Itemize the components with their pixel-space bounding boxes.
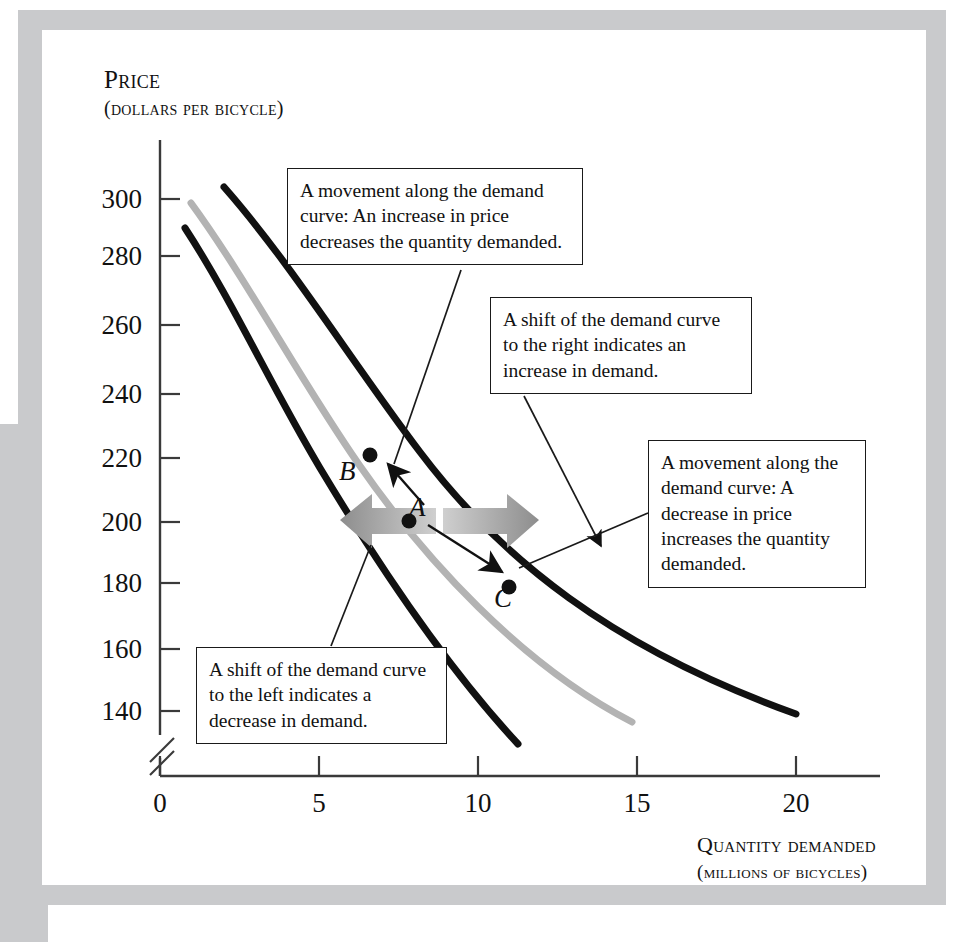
callout-movement-up: A movement along the demand curve: An in… bbox=[287, 168, 583, 265]
leader-line-shift-right bbox=[524, 396, 601, 546]
callout-shift-right: A shift of the demand curve to the right… bbox=[490, 297, 752, 394]
y-tick-label: 160 bbox=[84, 634, 142, 665]
demand-curve-original bbox=[191, 203, 632, 722]
y-tick-label: 240 bbox=[84, 379, 142, 410]
leader-line-shift-left bbox=[331, 545, 371, 646]
x-tick-label: 10 bbox=[458, 788, 498, 819]
y-tick-label: 280 bbox=[84, 241, 142, 272]
y-axis-title-line1: Price bbox=[104, 66, 160, 94]
x-tick-label: 20 bbox=[776, 788, 816, 819]
point-label-a: A bbox=[409, 492, 426, 523]
y-axis-title-line2: (dollars per bicycle) bbox=[104, 97, 284, 120]
x-tick-label: 0 bbox=[140, 788, 180, 819]
leader-line-movement-up bbox=[394, 270, 461, 464]
figure-page: Price (dollars per bicycle) Quantity dem… bbox=[0, 0, 964, 942]
x-tick-label: 15 bbox=[617, 788, 657, 819]
y-tick-label: 220 bbox=[84, 443, 142, 474]
callout-movement-down: A movement along the demand curve: A dec… bbox=[648, 440, 866, 588]
x-axis-title-line2: (millions of bicycles) bbox=[697, 861, 867, 883]
x-axis-ticks bbox=[160, 756, 796, 776]
callout-shift-left: A shift of the demand curve to the left … bbox=[196, 647, 447, 744]
y-tick-label: 260 bbox=[84, 310, 142, 341]
point-label-c: C bbox=[494, 583, 512, 614]
point-label-b: B bbox=[339, 456, 356, 487]
point-dot-b bbox=[363, 448, 378, 463]
y-axis-break-symbol bbox=[150, 738, 174, 775]
x-tick-label: 5 bbox=[299, 788, 339, 819]
leader-line-movement-down bbox=[519, 513, 648, 568]
y-tick-label: 140 bbox=[84, 696, 142, 727]
y-axis-ticks bbox=[160, 199, 180, 711]
y-tick-label: 180 bbox=[84, 568, 142, 599]
y-tick-label: 200 bbox=[84, 507, 142, 538]
x-axis-title-line1: Quantity demanded bbox=[697, 832, 876, 858]
y-tick-label: 300 bbox=[84, 184, 142, 215]
